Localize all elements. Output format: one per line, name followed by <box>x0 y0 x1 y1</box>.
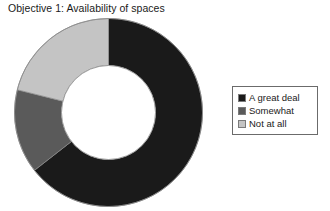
donut-inner-hole <box>62 66 156 160</box>
legend-label-somewhat: Somewhat <box>249 105 294 116</box>
donut-chart-svg <box>14 18 203 207</box>
chart-legend: A great deal Somewhat Not at all <box>232 86 318 135</box>
legend-item-somewhat: Somewhat <box>238 104 313 117</box>
legend-item-a-great-deal: A great deal <box>238 91 313 104</box>
legend-swatch-somewhat <box>238 107 246 115</box>
legend-swatch-a-great-deal <box>238 94 246 102</box>
legend-label-a-great-deal: A great deal <box>249 92 300 103</box>
donut-chart <box>14 18 203 207</box>
chart-container: Objective 1: Availability of spaces A gr… <box>0 0 330 211</box>
chart-title: Objective 1: Availability of spaces <box>8 2 165 15</box>
legend-label-not-at-all: Not at all <box>249 118 287 129</box>
legend-swatch-not-at-all <box>238 120 246 128</box>
legend-item-not-at-all: Not at all <box>238 117 313 130</box>
